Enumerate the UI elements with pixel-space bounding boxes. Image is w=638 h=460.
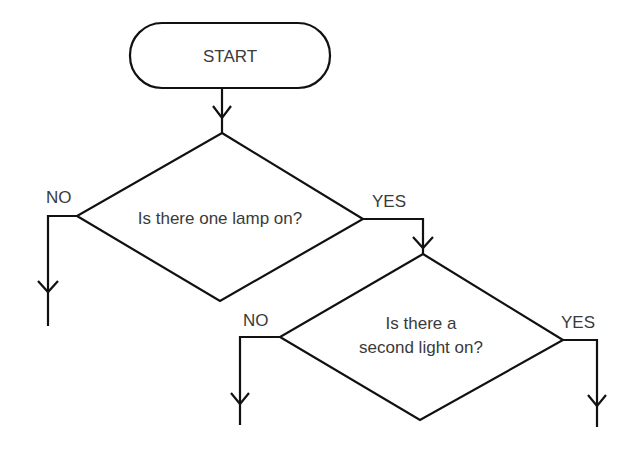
- edge-q2-no: NO: [231, 311, 280, 425]
- flowchart-canvas: START Is there one lamp on? NO YES Is th…: [0, 0, 638, 460]
- edge-q1-no: NO: [38, 188, 77, 326]
- q2-no-label: NO: [243, 311, 269, 330]
- edge-q1-yes: YES: [363, 192, 433, 254]
- edge-start-to-q1: [213, 88, 231, 133]
- edge-q2-yes: YES: [561, 313, 606, 427]
- start-terminator: START: [130, 23, 330, 88]
- q1-no-label: NO: [46, 188, 72, 207]
- decision-diamond-2: [280, 254, 563, 420]
- decision-2-label-line-1: Is there a: [386, 314, 457, 333]
- decision-2-label-line-2: second light on?: [359, 338, 483, 357]
- decision-one-lamp: Is there one lamp on?: [77, 133, 363, 301]
- start-label: START: [203, 47, 257, 66]
- q1-yes-label: YES: [372, 192, 406, 211]
- decision-1-label: Is there one lamp on?: [138, 209, 302, 228]
- decision-second-light: Is there a second light on?: [280, 254, 563, 420]
- q2-yes-label: YES: [561, 313, 595, 332]
